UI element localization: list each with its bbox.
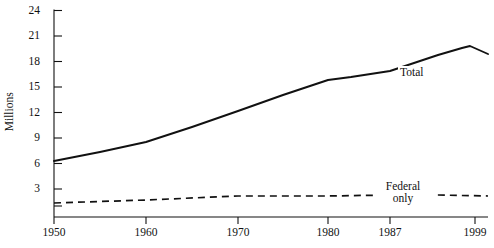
series-label-total: Total xyxy=(398,66,425,78)
series-line-total xyxy=(54,46,488,161)
series-label-federal-only: Federal only xyxy=(373,180,433,204)
chart-container: Millions 24 21 18 15 12 9 6 3 1950 1960 … xyxy=(0,0,494,248)
x-tick-marks xyxy=(54,217,475,224)
series-label-federal-line2: only xyxy=(375,192,431,204)
plot-area xyxy=(0,0,494,248)
series-label-federal-line1: Federal xyxy=(375,180,431,192)
y-tick-marks xyxy=(54,11,62,207)
